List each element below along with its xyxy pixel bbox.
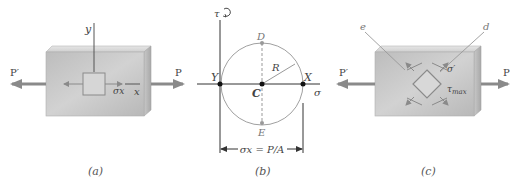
caption-b: (b) xyxy=(255,165,271,178)
radius-label: R xyxy=(271,62,280,73)
caption-c: (c) xyxy=(421,165,436,178)
tau-axis-label: τ xyxy=(214,8,220,19)
force-label-right-c: P xyxy=(503,67,510,78)
sigma-axis-label: σ xyxy=(314,87,322,98)
point-D-label: D xyxy=(256,31,265,42)
y-axis-label-a: y xyxy=(84,23,92,36)
x-axis-label-a: x xyxy=(134,86,140,97)
force-label-left-c: P′ xyxy=(339,67,349,78)
line-d-label: d xyxy=(483,21,489,32)
line-e-label: e xyxy=(360,21,366,32)
point-C-label: C xyxy=(252,87,261,100)
stress-label-a: σx xyxy=(113,86,124,96)
force-label-left-a: P′ xyxy=(10,67,20,78)
sigma-prime-label: σ′ xyxy=(447,64,455,74)
point-E xyxy=(260,121,264,125)
dimension-label: σx = P/A xyxy=(240,144,285,155)
panel-b: τ σ R D E Y C X σx = P/A (b) xyxy=(197,8,322,178)
rotated-element-c xyxy=(406,63,448,105)
stress-element-a xyxy=(83,73,105,95)
mohr-circle-figure: P′ P y σx x (a) τ σ R D xyxy=(0,0,517,182)
caption-a: (a) xyxy=(88,165,103,178)
panel-a: P′ P y σx x (a) xyxy=(10,23,183,178)
point-E-label: E xyxy=(257,127,266,138)
point-C xyxy=(260,82,265,87)
point-X-label: X xyxy=(303,71,313,84)
force-label-right-a: P xyxy=(175,67,182,78)
panel-c: P′ P e d σ′ τmax (c) xyxy=(338,21,510,178)
